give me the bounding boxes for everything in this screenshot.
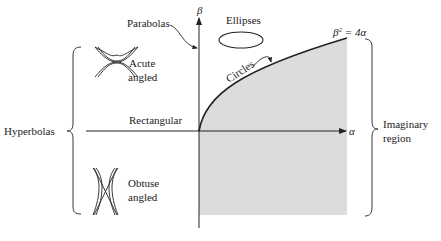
hyperbolas-label: Hyperbolas: [4, 125, 55, 137]
hyperbolas-brace: [67, 47, 81, 214]
parabolas-pointer-arrow: [170, 25, 197, 48]
acute-label-line1: Acute: [129, 57, 155, 69]
equation-label: β2 = 4α: [332, 26, 366, 38]
rectangular-label: Rectangular: [129, 114, 182, 126]
conic-classification-diagram: α β Parabolas Ellipses Circles β2 = 4α R…: [0, 0, 441, 241]
imaginary-label-line2: region: [383, 132, 412, 144]
obtuse-label-line1: Obtuse: [128, 177, 159, 189]
parabolas-label: Parabolas: [127, 17, 170, 29]
imaginary-region-brace: [365, 39, 378, 216]
imaginary-label-line1: Imaginary: [383, 118, 429, 130]
ellipses-label: Ellipses: [226, 14, 261, 26]
alpha-axis-label: α: [349, 125, 355, 137]
acute-label-line2: angled: [128, 71, 158, 83]
ellipse-icon: [219, 32, 263, 48]
obtuse-hyperbola-icon: [93, 168, 118, 215]
obtuse-label-line2: angled: [128, 191, 158, 203]
beta-axis-label: β: [196, 4, 203, 16]
